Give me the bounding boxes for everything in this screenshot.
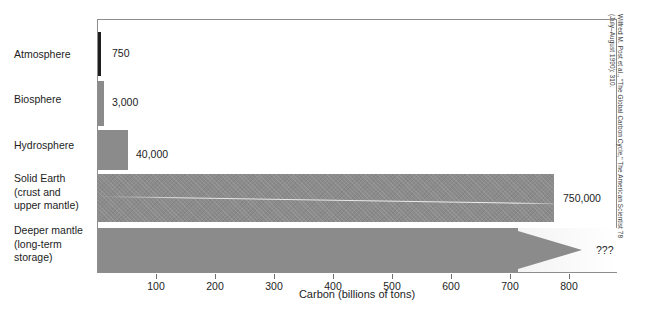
x-tick-400 bbox=[333, 274, 334, 279]
category-label-biosphere: Biosphere bbox=[14, 93, 98, 107]
carbon-reservoir-bar-chart: Atmosphere Biosphere Hydrosphere Solid E… bbox=[0, 0, 663, 318]
category-label-hydrosphere: Hydrosphere bbox=[14, 139, 98, 153]
x-tick-500 bbox=[392, 274, 393, 279]
plot-area: 750 3,000 40,000 750,000 ??? 100 200 300… bbox=[97, 19, 617, 273]
value-label-hydrosphere: 40,000 bbox=[136, 148, 168, 160]
bar-hydrosphere bbox=[98, 130, 128, 170]
x-tick-600 bbox=[451, 274, 452, 279]
bar-solid-earth bbox=[98, 174, 554, 222]
bar-deeper-mantle bbox=[98, 228, 588, 272]
bar-hairline bbox=[98, 196, 554, 204]
x-tick-100 bbox=[156, 274, 157, 279]
x-tick-200 bbox=[215, 274, 216, 279]
value-label-atmosphere: 750 bbox=[112, 47, 130, 59]
open-ended-arrow-icon bbox=[98, 228, 588, 272]
bar-biosphere bbox=[98, 81, 104, 126]
category-label-solid-earth: Solid Earth (crust and upper mantle) bbox=[14, 172, 98, 213]
bar-atmosphere bbox=[98, 32, 101, 76]
source-credit: Wilfred M. Post et al., "The Global Carb… bbox=[608, 14, 624, 264]
x-axis-title: Carbon (billions of tons) bbox=[97, 288, 617, 300]
x-tick-700 bbox=[510, 274, 511, 279]
value-label-solid-earth: 750,000 bbox=[563, 192, 601, 204]
category-label-deeper-mantle: Deeper mantle (long-term storage) bbox=[14, 224, 98, 265]
x-tick-800 bbox=[569, 274, 570, 279]
category-label-atmosphere: Atmosphere bbox=[14, 48, 98, 62]
x-tick-300 bbox=[274, 274, 275, 279]
value-label-biosphere: 3,000 bbox=[112, 96, 138, 108]
